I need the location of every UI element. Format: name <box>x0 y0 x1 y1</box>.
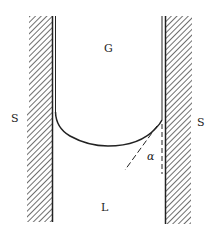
tangent-line <box>125 126 157 170</box>
solid-left-label: S <box>11 112 19 125</box>
liquid-label: L <box>101 201 108 214</box>
right-wall-hatch <box>166 16 192 112</box>
solid-right-label: S <box>197 116 205 129</box>
gas-label: G <box>104 42 113 55</box>
contact-angle-label: α <box>147 150 154 163</box>
left-wall-hatch <box>29 16 52 112</box>
meniscus-diagram: G L S S α <box>0 0 216 249</box>
